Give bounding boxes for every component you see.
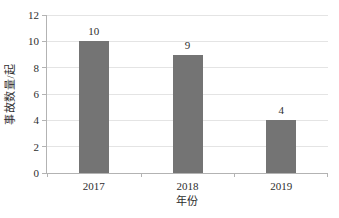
y-axis-tick — [42, 67, 46, 68]
y-tick-label: 4 — [5, 113, 39, 127]
y-axis-tick — [42, 120, 46, 121]
plot-area: 0246810121020179201842019 — [46, 15, 328, 174]
x-tick-label: 2018 — [153, 179, 223, 193]
y-tick-label: 8 — [5, 61, 39, 75]
y-axis-tick — [42, 173, 46, 174]
x-tick-label: 2017 — [59, 179, 129, 193]
x-axis-tick — [234, 173, 235, 177]
gridline — [47, 15, 328, 16]
bar — [266, 120, 296, 173]
bar — [173, 55, 203, 174]
x-tick-label: 2019 — [246, 179, 316, 193]
bar-chart: 事故数量/起 0246810121020179201842019 年份 — [0, 0, 339, 218]
y-axis-tick — [42, 41, 46, 42]
y-tick-label: 10 — [5, 34, 39, 48]
y-tick-label: 12 — [5, 8, 39, 22]
y-axis-tick — [42, 94, 46, 95]
y-axis-tick — [42, 146, 46, 147]
y-tick-label: 6 — [5, 87, 39, 101]
bar — [79, 41, 109, 173]
x-axis-tick — [47, 173, 48, 177]
x-axis-tick — [141, 173, 142, 177]
x-axis-tick — [327, 173, 328, 177]
y-axis-tick — [42, 15, 46, 16]
y-tick-label: 0 — [5, 166, 39, 180]
bar-value-label: 9 — [168, 39, 208, 52]
bar-value-label: 10 — [74, 25, 114, 38]
y-tick-label: 2 — [5, 140, 39, 154]
bar-value-label: 4 — [261, 104, 301, 117]
x-axis-title: 年份 — [46, 192, 327, 208]
